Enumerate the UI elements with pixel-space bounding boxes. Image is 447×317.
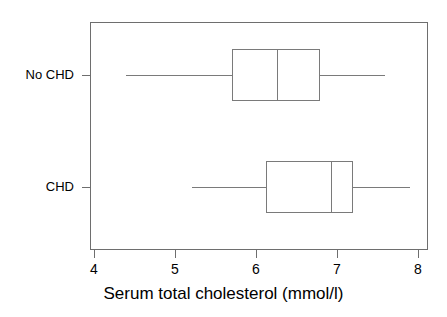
- x-tick-mark-5: [175, 250, 176, 258]
- category-tick-chd: [82, 187, 90, 188]
- median-line-chd: [331, 161, 332, 213]
- x-tick-mark-8: [418, 250, 419, 258]
- whisker-low-no-chd: [126, 75, 232, 76]
- x-axis-title: Serum total cholesterol (mmol/l): [0, 284, 447, 304]
- x-tick-label-5: 5: [160, 261, 190, 277]
- whisker-low-chd: [192, 187, 266, 188]
- category-tick-no-chd: [82, 75, 90, 76]
- whisker-high-chd: [353, 187, 410, 188]
- category-label-chd: CHD: [46, 180, 74, 193]
- x-tick-label-8: 8: [403, 261, 433, 277]
- category-axis-item-no-chd: No CHD: [0, 68, 90, 82]
- boxplot-figure: No CHD CHD 4 5 6 7 8 Serum total cholest…: [0, 0, 447, 317]
- x-tick-label-4: 4: [79, 261, 109, 277]
- box-no-chd: [232, 49, 320, 101]
- box-chd: [266, 161, 353, 213]
- category-label-no-chd: No CHD: [26, 68, 74, 81]
- x-tick-label-6: 6: [241, 261, 271, 277]
- x-tick-label-7: 7: [322, 261, 352, 277]
- x-tick-mark-7: [337, 250, 338, 258]
- whisker-high-no-chd: [320, 75, 385, 76]
- x-tick-mark-6: [256, 250, 257, 258]
- x-tick-mark-4: [94, 250, 95, 258]
- category-axis-item-chd: CHD: [0, 180, 90, 194]
- median-line-no-chd: [277, 49, 278, 101]
